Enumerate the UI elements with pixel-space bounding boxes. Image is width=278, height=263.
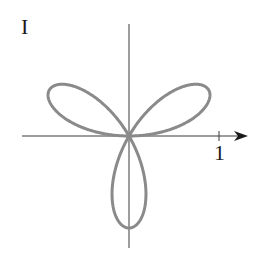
panel-label: I bbox=[21, 14, 28, 40]
polar-plot bbox=[0, 0, 278, 263]
x-tick-label: 1 bbox=[214, 140, 225, 166]
